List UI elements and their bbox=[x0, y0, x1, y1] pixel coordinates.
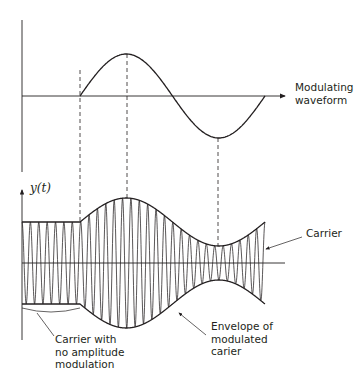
label-line: Envelope of bbox=[211, 320, 273, 333]
label-line: Carrier with bbox=[55, 333, 124, 346]
label-line: modulation bbox=[55, 358, 124, 371]
carrier-label: Carrier bbox=[306, 227, 342, 240]
modulating-waveform-label: Modulating waveform bbox=[295, 81, 354, 106]
label-line: waveform bbox=[295, 94, 354, 107]
no-mod-leader bbox=[37, 313, 54, 336]
label-line: no amplitude bbox=[55, 346, 124, 359]
label-line: carier bbox=[211, 345, 273, 358]
carrier-arrow bbox=[266, 237, 302, 249]
label-line: Modulating bbox=[295, 81, 354, 94]
no-modulation-label: Carrier with no amplitude modulation bbox=[55, 333, 124, 371]
envelope-top bbox=[22, 198, 265, 246]
no-mod-bracket bbox=[22, 308, 80, 312]
dashed-guides bbox=[80, 54, 218, 246]
bottom-plot bbox=[22, 190, 302, 340]
top-plot bbox=[22, 20, 285, 172]
y-axis-label: y(t) bbox=[30, 181, 51, 195]
label-line: modulated bbox=[211, 333, 273, 346]
envelope-arrow bbox=[179, 313, 206, 335]
envelope-label: Envelope of modulated carier bbox=[211, 320, 273, 358]
am-diagram bbox=[0, 0, 363, 389]
